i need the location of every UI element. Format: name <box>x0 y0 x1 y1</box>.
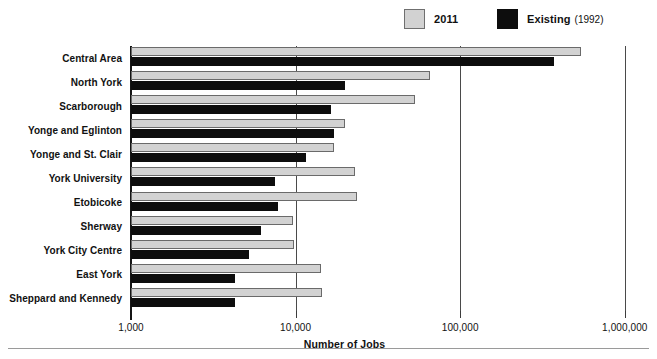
category-label: North York <box>0 70 127 94</box>
bar-existing <box>131 105 331 114</box>
x-tick-label: 100,000 <box>442 322 479 333</box>
legend-swatch-2011-icon <box>404 9 425 29</box>
bar-rows <box>131 46 625 311</box>
chart-legend: 2011 Existing (1992) <box>0 8 657 34</box>
bar-row <box>131 118 625 142</box>
bar-row <box>131 263 625 287</box>
category-label: East York <box>0 263 127 287</box>
category-label: Etobicoke <box>0 191 127 215</box>
category-label: Sheppard and Kennedy <box>0 287 127 311</box>
plot-area <box>131 46 625 311</box>
bar-row <box>131 142 625 166</box>
bar-existing <box>131 81 345 90</box>
legend-label-existing-year: (1992) <box>575 14 604 25</box>
bar-2011 <box>131 119 345 128</box>
x-tick-label: 1,000,000 <box>602 322 647 333</box>
x-tick <box>296 311 297 318</box>
category-label: Yonge and Eglinton <box>0 118 127 142</box>
bar-row <box>131 287 625 311</box>
legend-item-existing: Existing (1992) <box>497 9 604 29</box>
footer-divider <box>8 348 649 349</box>
legend-label-existing: Existing <box>527 13 571 25</box>
bar-row <box>131 70 625 94</box>
bar-existing <box>131 129 334 138</box>
x-tick <box>625 311 626 318</box>
value-axis: 1,00010,000100,0001,000,000 Number of Jo… <box>0 311 657 359</box>
x-tick-label: 1,000 <box>118 322 144 333</box>
bar-existing <box>131 298 235 307</box>
jobs-log-bar-chart: 2011 Existing (1992) Central AreaNorth Y… <box>0 0 657 359</box>
category-label: York University <box>0 166 127 190</box>
category-label: Yonge and St. Clair <box>0 142 127 166</box>
bar-2011 <box>131 47 581 56</box>
bar-row <box>131 239 625 263</box>
bar-2011 <box>131 95 415 104</box>
bar-row <box>131 166 625 190</box>
bar-2011 <box>131 288 322 297</box>
bar-existing <box>131 177 275 186</box>
x-tick <box>130 311 132 320</box>
category-axis-labels: Central AreaNorth YorkScarboroughYonge a… <box>0 46 127 311</box>
legend-label-2011: 2011 <box>434 13 458 25</box>
category-label: Central Area <box>0 46 127 70</box>
bar-2011 <box>131 240 294 249</box>
bar-2011 <box>131 71 430 80</box>
bar-existing <box>131 202 278 211</box>
legend-item-2011: 2011 <box>404 9 458 29</box>
bar-2011 <box>131 216 293 225</box>
legend-swatch-existing-icon <box>497 9 518 29</box>
category-label: Scarborough <box>0 94 127 118</box>
x-tick-label: 10,000 <box>280 322 311 333</box>
bar-2011 <box>131 192 357 201</box>
x-tick <box>460 311 461 318</box>
bar-2011 <box>131 167 355 176</box>
bar-row <box>131 215 625 239</box>
bar-existing <box>131 153 306 162</box>
bar-row <box>131 191 625 215</box>
category-label: Sherway <box>0 215 127 239</box>
bar-existing <box>131 57 554 66</box>
bar-row <box>131 94 625 118</box>
bar-existing <box>131 226 261 235</box>
bar-2011 <box>131 143 334 152</box>
bar-2011 <box>131 264 321 273</box>
category-label: York City Centre <box>0 239 127 263</box>
bar-existing <box>131 250 249 259</box>
bar-row <box>131 46 625 70</box>
bar-existing <box>131 274 235 283</box>
